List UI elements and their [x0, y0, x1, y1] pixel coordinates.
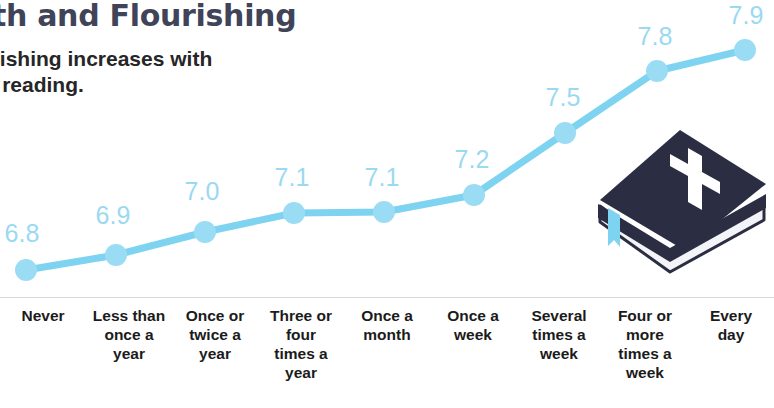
x-axis-label-line: twice a [189, 326, 241, 343]
bible-icon [592, 122, 770, 282]
x-axis-label: Everyday [688, 306, 774, 406]
x-axis-label-line: Once or [186, 307, 245, 324]
x-axis-label-line: Several [531, 307, 586, 324]
x-axis-label-line: once a [104, 326, 153, 343]
x-axis-label-line: times a [532, 326, 585, 343]
x-axis-label-line: four [286, 326, 316, 343]
x-axis-label-line: Every [710, 307, 752, 324]
x-axis-label-line: times a [618, 345, 671, 362]
x-axis-label-line: year [285, 364, 317, 381]
x-axis-label-line: Once a [447, 307, 499, 324]
x-axis-label: Severaltimes aweek [516, 306, 602, 406]
x-axis-label: Once amonth [344, 306, 430, 406]
x-axis-label-line: year [113, 345, 145, 362]
x-axis-labels: NeverLess thanonce ayearOnce ortwice aye… [0, 306, 774, 406]
chart-data-point[interactable] [194, 221, 216, 243]
x-axis-label-line: week [540, 345, 578, 362]
x-axis-label-line: times a [274, 345, 327, 362]
chart-data-point[interactable] [283, 202, 305, 224]
x-axis-label-line: Less than [93, 307, 165, 324]
x-axis-label: Never [0, 306, 86, 406]
x-axis-label: Less thanonce ayear [86, 306, 172, 406]
x-axis-label-line: more [626, 326, 664, 343]
chart-data-point[interactable] [105, 244, 127, 266]
x-axis-label: Once aweek [430, 306, 516, 406]
chart-data-point[interactable] [463, 184, 485, 206]
x-axis-label-line: Once a [361, 307, 413, 324]
x-axis-label-line: year [199, 345, 231, 362]
axis-separator-line [0, 297, 774, 298]
x-axis-label-line: day [718, 326, 745, 343]
chart-data-point[interactable] [373, 201, 395, 223]
x-axis-label-line: Never [21, 307, 64, 324]
x-axis-label-line: Four or [618, 307, 672, 324]
x-axis-label: Four ormoretimes aweek [602, 306, 688, 406]
bible-illustration [592, 122, 770, 282]
chart-data-point[interactable] [646, 60, 668, 82]
x-axis-label-line: week [626, 364, 664, 381]
chart-data-point[interactable] [15, 259, 37, 281]
chart-data-point[interactable] [554, 122, 576, 144]
chart-data-point[interactable] [734, 39, 756, 61]
x-axis-label: Three orfourtimes ayear [258, 306, 344, 406]
x-axis-label: Once ortwice ayear [172, 306, 258, 406]
infographic-root: aith and Flourishing ourishing increases… [0, 0, 774, 408]
x-axis-label-line: month [363, 326, 410, 343]
x-axis-label-line: week [454, 326, 492, 343]
bible-ribbon-bookmark [608, 208, 620, 247]
x-axis-label-line: Three or [270, 307, 332, 324]
